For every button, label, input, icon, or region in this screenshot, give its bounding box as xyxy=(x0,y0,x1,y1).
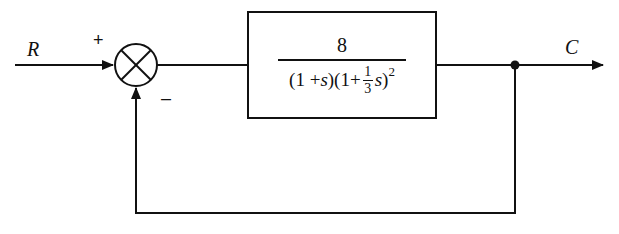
minus-sign: – xyxy=(161,88,171,109)
frac-num: 1 xyxy=(364,65,371,79)
plus-sign: + xyxy=(93,30,104,51)
den-close1: )(1+ xyxy=(328,69,361,91)
tf-numerator: 8 xyxy=(337,34,347,56)
tf-denominator: (1 + s )(1+ 1 3 s ) 2 xyxy=(289,65,395,96)
transfer-function: 8 (1 + s )(1+ 1 3 s ) 2 xyxy=(248,12,436,118)
den-var2: s xyxy=(375,69,382,91)
den-var1: s xyxy=(320,69,327,91)
den-open1: (1 + xyxy=(289,69,320,91)
output-label-c: C xyxy=(565,36,578,59)
den-exponent: 2 xyxy=(388,64,395,80)
den-fraction: 1 3 xyxy=(363,65,373,96)
input-label-r: R xyxy=(27,38,39,61)
frac-den: 3 xyxy=(364,82,371,96)
summing-junction xyxy=(115,44,157,86)
tf-fraction-bar xyxy=(278,59,406,61)
